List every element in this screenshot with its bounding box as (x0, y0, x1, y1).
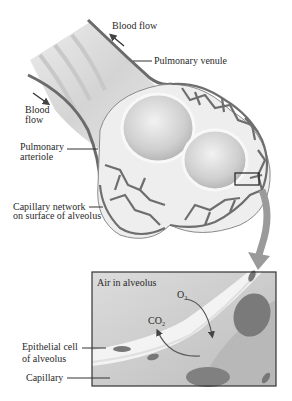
label-epithelial-1: Epithelial cell (22, 342, 78, 352)
label-pulmonary-arteriole-2: arteriole (20, 152, 53, 162)
label-o2: O2 (177, 290, 187, 303)
label-blood-flow-left-2: flow (25, 115, 43, 125)
label-epithelial-2: of alveolus (22, 354, 66, 364)
label-co2: CO2 (148, 316, 165, 329)
blood-flow-arrow-left (33, 93, 47, 103)
alveolus-2 (183, 130, 247, 190)
red-blood-cell (186, 367, 230, 387)
label-capillary-network-2: on surface of alveolus (13, 211, 101, 221)
label-blood-flow-top: Blood flow (112, 21, 157, 31)
inset-title: Air in alveolus (97, 278, 156, 288)
epithelial-nucleus (113, 346, 131, 352)
label-pulmonary-venule: Pulmonary venule (154, 56, 227, 66)
label-capillary: Capillary (26, 373, 63, 383)
